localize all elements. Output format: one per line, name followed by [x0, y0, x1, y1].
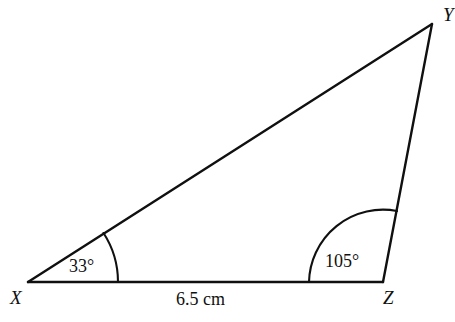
- vertex-label-y: Y: [443, 5, 454, 24]
- side-xy-line: [28, 24, 432, 282]
- angle-label-at-z: 105°: [325, 252, 359, 270]
- side-length-label-xz: 6.5 cm: [176, 290, 225, 308]
- angle-arc-at-z: [309, 210, 397, 282]
- angle-arc-at-x: [104, 233, 119, 282]
- side-zy-line: [383, 24, 432, 282]
- geometry-diagram-canvas: X Y Z 33° 105° 6.5 cm: [0, 0, 455, 322]
- angle-label-at-x: 33°: [69, 257, 94, 275]
- vertex-label-x: X: [10, 288, 22, 307]
- vertex-label-z: Z: [383, 288, 394, 307]
